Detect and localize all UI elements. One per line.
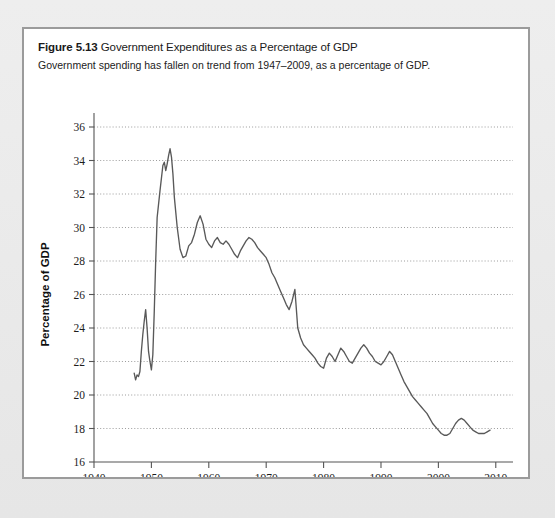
y-tick-label: 16 xyxy=(74,456,86,468)
y-axis-title: Percentage of GDP xyxy=(39,242,51,346)
line-chart: 19401950196019701980199020002010 1618202… xyxy=(24,85,528,477)
y-tick-label: 20 xyxy=(74,389,86,401)
x-tick-label: 1970 xyxy=(255,472,278,477)
y-tick-label: 36 xyxy=(74,121,86,133)
figure-title: Figure 5.13 Government Expenditures as a… xyxy=(38,40,514,54)
x-tick-label: 1950 xyxy=(140,472,163,477)
x-tick-label: 1940 xyxy=(83,472,106,477)
x-tick-label: 2000 xyxy=(427,472,450,477)
y-tick-label: 24 xyxy=(74,322,86,334)
figure-page: Figure 5.13 Government Expenditures as a… xyxy=(0,0,555,518)
y-tick-label: 34 xyxy=(74,155,86,167)
y-tick-label: 22 xyxy=(74,356,86,368)
x-tick-label: 1960 xyxy=(197,472,220,477)
figure-title-text: Government Expenditures as a Percentage … xyxy=(101,41,358,53)
y-tick-label: 30 xyxy=(74,222,86,234)
figure-card: Figure 5.13 Government Expenditures as a… xyxy=(22,27,530,479)
figure-header: Figure 5.13 Government Expenditures as a… xyxy=(24,29,528,72)
y-tick-label: 26 xyxy=(74,289,86,301)
figure-subtitle: Government spending has fallen on trend … xyxy=(38,59,514,72)
figure-number: Figure 5.13 xyxy=(38,41,98,53)
y-tick-label: 32 xyxy=(74,188,86,200)
x-tick-label: 2010 xyxy=(484,472,507,477)
y-tick-label: 18 xyxy=(74,423,86,435)
x-tick-label: 1980 xyxy=(312,472,335,477)
x-tick-label: 1990 xyxy=(369,472,392,477)
chart-container: 19401950196019701980199020002010 1618202… xyxy=(24,85,528,477)
y-tick-label: 28 xyxy=(74,255,86,267)
